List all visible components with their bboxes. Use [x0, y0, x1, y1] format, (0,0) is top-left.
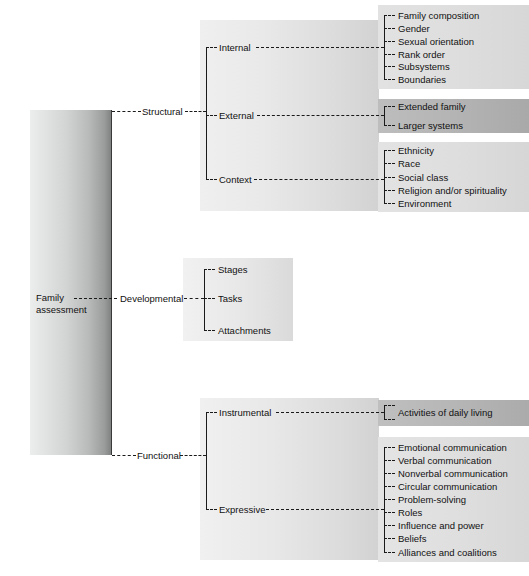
- stub-tasks: [204, 298, 215, 299]
- leaf-item: Rank order: [398, 49, 445, 60]
- root-label: Family assessment: [36, 292, 98, 316]
- spine-instrumental-leaves: [384, 405, 385, 419]
- leaf-stub: [384, 473, 395, 474]
- sub-label-attachments: Attachments: [218, 325, 271, 336]
- leaf-stub: [384, 419, 395, 420]
- connector-structural-spine: [185, 111, 206, 112]
- leaf-item: Ethnicity: [398, 145, 434, 156]
- leaf-stub: [384, 538, 395, 539]
- leaf-item: Emotional communication: [398, 442, 507, 453]
- leaf-item: Circular communication: [398, 481, 497, 492]
- leaf-item: Social class: [398, 172, 448, 183]
- leaf-item: Verbal communication: [398, 455, 491, 466]
- connector-instrumental-leaves: [276, 412, 384, 413]
- leaf-stub: [384, 525, 395, 526]
- spine-developmental: [204, 269, 205, 330]
- leaf-stub: [384, 405, 395, 406]
- leaf-stub: [384, 54, 395, 55]
- leaf-stub: [384, 28, 395, 29]
- connector-external-leaves: [257, 115, 384, 116]
- connector-root-functional: [112, 455, 136, 456]
- leaf-stub: [384, 552, 395, 553]
- spine-structural: [206, 47, 207, 179]
- leaf-item: Race: [398, 158, 420, 169]
- sub-label-expressive: Expressive: [219, 504, 265, 515]
- leaf-item: Activities of daily living: [398, 407, 493, 418]
- sub-label-stages: Stages: [218, 264, 248, 275]
- leaf-stub: [384, 41, 395, 42]
- connector-context-leaves: [254, 179, 384, 180]
- leaf-item: Religion and/or spirituality: [398, 185, 507, 196]
- leaf-item: Nonverbal communication: [398, 468, 508, 479]
- sub-label-tasks: Tasks: [218, 293, 242, 304]
- stub-stages: [204, 269, 215, 270]
- sub-label-internal: Internal: [219, 42, 251, 53]
- stub-context: [206, 179, 217, 180]
- stub-attachments: [204, 330, 215, 331]
- leaf-item: Problem-solving: [398, 494, 466, 505]
- spine-internal-leaves: [384, 15, 385, 79]
- stub-instrumental: [206, 412, 217, 413]
- leaf-item: Influence and power: [398, 520, 484, 531]
- leaf-item: Boundaries: [398, 74, 446, 85]
- leaf-item: Family composition: [398, 10, 479, 21]
- panel-functional: [200, 398, 379, 560]
- leaf-stub: [384, 79, 395, 80]
- stub-internal: [206, 47, 217, 48]
- connector-internal-leaves: [256, 47, 384, 48]
- sub-label-context: Context: [219, 174, 252, 185]
- root-gradient-bar: [30, 110, 112, 455]
- branch-label-structural: Structural: [142, 106, 183, 117]
- leaf-stub: [384, 177, 395, 178]
- stub-expressive: [206, 509, 217, 510]
- connector-root-structural: [112, 111, 141, 112]
- connector-expressive-leaves: [266, 509, 384, 510]
- leaf-stub: [384, 447, 395, 448]
- connector-root-developmental: [74, 298, 117, 299]
- leaf-stub: [384, 106, 395, 107]
- sub-label-instrumental: Instrumental: [219, 407, 271, 418]
- leaf-item: Environment: [398, 198, 451, 209]
- leaf-stub: [384, 499, 395, 500]
- leaf-stub: [384, 190, 395, 191]
- connector-developmental-spine: [184, 298, 204, 299]
- branch-label-developmental: Developmental: [120, 293, 183, 304]
- leaf-item: Subsystems: [398, 61, 450, 72]
- leaf-stub: [384, 203, 395, 204]
- leaf-stub: [384, 512, 395, 513]
- leaf-stub: [384, 150, 395, 151]
- family-assessment-diagram: Family assessment Structural Development…: [0, 0, 529, 576]
- leaf-item: Larger systems: [398, 120, 463, 131]
- leaf-stub: [384, 66, 395, 67]
- leaf-item: Sexual orientation: [398, 36, 474, 47]
- stub-external: [206, 115, 217, 116]
- leaf-item: Alliances and coalitions: [398, 547, 497, 558]
- leaf-item: Beliefs: [398, 533, 427, 544]
- leaf-stub: [384, 163, 395, 164]
- leaf-item: Extended family: [398, 101, 466, 112]
- spine-external-leaves: [384, 106, 385, 125]
- leaf-item: Roles: [398, 507, 422, 518]
- spine-functional: [206, 412, 207, 509]
- leaf-stub: [384, 460, 395, 461]
- leaf-stub: [384, 486, 395, 487]
- leaf-item: Gender: [398, 23, 430, 34]
- sub-label-external: External: [219, 110, 254, 121]
- branch-label-functional: Functional: [137, 450, 181, 461]
- connector-functional-spine: [180, 455, 206, 456]
- leaf-stub: [384, 125, 395, 126]
- leaf-stub: [384, 15, 395, 16]
